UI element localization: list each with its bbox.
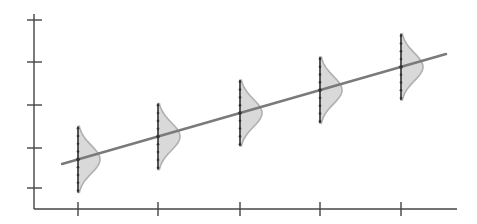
whisker-dot [400,34,403,37]
whisker-dot [319,73,322,76]
y-axis [27,14,42,209]
whisker-dot [400,73,403,76]
whisker-dot [77,150,80,153]
whisker-dot [157,112,160,115]
whisker-dot [400,42,403,45]
whisker-dot [319,120,322,123]
whisker-dot [157,104,160,107]
whisker-dot [157,127,160,130]
whisker-dot [77,135,80,138]
whisker-dot [400,81,403,84]
whisker-dot [400,58,403,61]
whisker-dot [239,135,242,138]
whisker-dot [157,120,160,123]
whisker-dot [77,143,80,146]
whisker-dot [319,97,322,100]
whisker-dot [157,159,160,162]
whisker-dot [318,88,322,92]
whisker-dot [239,88,242,91]
whisker-dot [239,120,242,123]
whisker-dot [156,135,160,139]
whisker-dot [77,166,80,169]
regression-line [62,54,446,164]
whisker-dot [400,97,403,100]
whisker-dot [319,112,322,115]
whisker-dot [400,50,403,53]
whisker-dot [77,182,80,185]
whisker-dot [157,151,160,154]
x-axis [34,202,457,216]
whisker-dot [399,65,403,69]
whisker-dot [76,158,80,162]
whisker-dot [319,81,322,84]
whisker-dot [77,189,80,192]
whisker-dot [239,96,242,99]
whisker-dot [319,104,322,107]
whisker-dot [157,166,160,169]
regression-diagram [0,0,477,224]
whisker-dot [238,111,242,115]
distribution-whiskers [76,34,403,193]
whisker-dot [239,143,242,146]
whisker-dot [239,127,242,130]
whisker-dot [157,143,160,146]
whisker-dot [319,65,322,68]
conditional-distributions [78,34,423,193]
whisker-dot [239,104,242,107]
whisker-dot [77,174,80,177]
whisker-dot [77,127,80,130]
whisker-dot [319,58,322,61]
whisker-dot [400,89,403,92]
whisker-dot [239,81,242,84]
